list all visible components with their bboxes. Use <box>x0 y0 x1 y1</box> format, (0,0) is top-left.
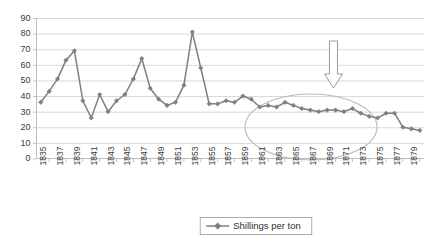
y-axis-tick-label: 50 <box>20 75 30 85</box>
chart-background <box>0 0 432 243</box>
x-axis-tick-label: 1839 <box>72 146 82 165</box>
x-axis-tick-label: 1847 <box>139 146 149 165</box>
x-axis-tick-label: 1867 <box>308 146 318 165</box>
legend: Shillings per ton <box>200 218 312 235</box>
y-axis-tick-label: 40 <box>20 91 30 101</box>
x-axis-tick-label: 1879 <box>409 146 419 165</box>
chart-canvas: 0102030405060708090 18351837183918411843… <box>0 0 432 243</box>
x-axis-tick-label: 1853 <box>190 146 200 165</box>
x-axis-tick-label: 1869 <box>325 146 335 165</box>
x-axis-tick-label: 1837 <box>55 146 65 165</box>
x-axis-tick-label: 1849 <box>156 146 166 165</box>
y-axis-tick-label: 70 <box>20 44 30 54</box>
x-axis-tick-label: 1875 <box>375 146 385 165</box>
x-axis-tick-label: 1871 <box>341 146 351 165</box>
x-axis-tick-label: 1841 <box>89 146 99 165</box>
x-axis-tick-label: 1859 <box>240 146 250 165</box>
x-axis-tick-label: 1861 <box>257 146 267 165</box>
line-chart: 0102030405060708090 18351837183918411843… <box>0 0 432 243</box>
x-axis-tick-label: 1873 <box>358 146 368 165</box>
x-axis-tick-label: 1865 <box>291 146 301 165</box>
y-axis-tick-label: 80 <box>20 28 30 38</box>
x-axis-tick-label: 1857 <box>223 146 233 165</box>
x-axis-tick-label: 1835 <box>38 146 48 165</box>
y-axis-tick-label: 10 <box>20 138 30 148</box>
x-axis-tick-label: 1845 <box>122 146 132 165</box>
x-axis-tick-label: 1863 <box>274 146 284 165</box>
x-axis-tick-label: 1851 <box>173 146 183 165</box>
legend-label: Shillings per ton <box>233 220 301 231</box>
x-axis-tick-label: 1855 <box>207 146 217 165</box>
y-axis-tick-label: 30 <box>20 107 30 117</box>
x-axis-labels: 1835183718391841184318451847184918511853… <box>38 146 419 165</box>
x-axis-tick-label: 1877 <box>392 146 402 165</box>
y-axis-tick-label: 20 <box>20 122 30 132</box>
y-axis-tick-label: 0 <box>25 153 30 163</box>
y-axis-tick-label: 60 <box>20 60 30 70</box>
x-axis-tick-label: 1843 <box>106 146 116 165</box>
y-axis-tick-label: 90 <box>20 13 30 23</box>
